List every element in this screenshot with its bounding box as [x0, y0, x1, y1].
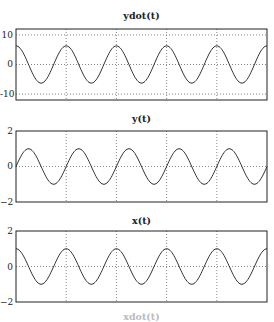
ytick-bottom: −2 [0, 297, 13, 307]
chart-title-x: x(t) [16, 215, 267, 226]
ytick-zero: 0 [0, 59, 13, 69]
ytick-bottom: −2 [0, 197, 13, 207]
ytick-top: 10 [0, 30, 13, 40]
ytick-zero: 0 [0, 262, 13, 272]
chart-title-partial: xdot(t) [16, 311, 267, 322]
chart-title-y: y(t) [16, 113, 267, 124]
plot-area-y [16, 131, 267, 202]
ytick-top: 2 [0, 226, 13, 236]
plot-area-ydot [16, 29, 267, 100]
chart-title-ydot: ydot(t) [16, 10, 267, 21]
ytick-top: 2 [0, 126, 13, 136]
ytick-bottom: -10 [0, 89, 13, 99]
plot-area-x [16, 231, 267, 302]
ytick-zero: 0 [0, 161, 13, 171]
